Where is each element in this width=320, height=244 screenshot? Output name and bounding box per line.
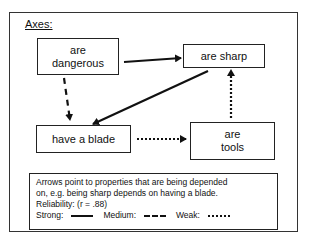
strong-line-sample: [71, 215, 93, 217]
node-label: are: [225, 128, 241, 141]
legend-strong-label: Strong:: [36, 210, 63, 221]
legend-weak-label: Weak:: [176, 210, 200, 221]
node-have-a-blade: have a blade: [36, 125, 131, 153]
edge-sharp-blade: [93, 71, 208, 124]
node-label: are: [70, 44, 86, 57]
node-are-dangerous: are dangerous: [37, 38, 119, 75]
edge-dangerous-blade: [64, 78, 70, 120]
edge-dangerous-sharp: [124, 58, 181, 62]
legend-box: Arrows point to properties that are bein…: [29, 173, 278, 230]
legend-text-1: Arrows point to properties that are bein…: [36, 177, 271, 188]
legend-reliability: Reliability: (r = .88): [36, 199, 271, 210]
node-label: have a blade: [52, 133, 115, 146]
legend-medium-label: Medium:: [103, 210, 136, 221]
legend-keys: Strong: Medium: Weak:: [36, 210, 271, 221]
medium-line-sample: [144, 215, 166, 217]
node-label: tools: [221, 141, 244, 154]
node-label: dangerous: [52, 57, 104, 70]
weak-line-sample: [208, 215, 230, 217]
node-label: are sharp: [201, 50, 247, 63]
node-are-sharp: are sharp: [183, 44, 265, 68]
node-are-tools: are tools: [190, 122, 275, 160]
legend-text-2: on, e.g. being sharp depends on having a…: [36, 188, 271, 199]
